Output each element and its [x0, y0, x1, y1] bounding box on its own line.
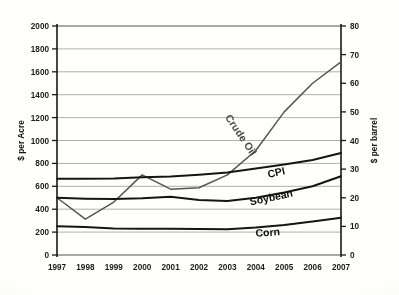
right-tick-label-70: 70: [350, 51, 360, 60]
left-tick-label-400: 400: [35, 205, 49, 214]
right-tick-label-50: 50: [350, 108, 360, 117]
data-series-group: [57, 62, 341, 229]
x-tick-label-2000: 2000: [133, 263, 152, 272]
x-tick-label-1997: 1997: [48, 263, 67, 272]
series-label-corn: Corn: [255, 225, 280, 239]
gridlines: [57, 26, 341, 255]
x-tick-label-2003: 2003: [218, 263, 237, 272]
right-tick-label-60: 60: [350, 79, 360, 88]
x-tick-label-2002: 2002: [190, 263, 209, 272]
right-axis: 80 70 60 50 40 30 20 10 0 $ per barrel: [341, 22, 379, 260]
x-tick-label-2005: 2005: [275, 263, 294, 272]
chart-container: 2000 1800 1600 1400 1200 1000 800 600 40…: [0, 0, 399, 295]
x-tick-label-1998: 1998: [76, 263, 95, 272]
right-tick-label-10: 10: [350, 222, 360, 231]
left-axis: 2000 1800 1600 1400 1200 1000 800 600 40…: [16, 22, 57, 260]
left-tick-label-200: 200: [35, 228, 49, 237]
series-label-cpi: CPI: [266, 164, 286, 180]
left-tick-label-800: 800: [35, 159, 49, 168]
right-tick-label-30: 30: [350, 165, 360, 174]
right-tick-label-40: 40: [350, 137, 360, 146]
left-tick-label-600: 600: [35, 182, 49, 191]
series-line-cpi: [57, 153, 341, 179]
left-tick-label-1600: 1600: [31, 68, 50, 77]
left-tick-label-2000: 2000: [31, 22, 50, 31]
right-axis-title: $ per barrel: [369, 118, 379, 164]
right-tick-label-80: 80: [350, 22, 360, 31]
right-tick-label-20: 20: [350, 194, 360, 203]
left-tick-label-1800: 1800: [31, 45, 50, 54]
series-labels: Crude Oil CPI Soybean Corn: [223, 112, 294, 239]
series-line-corn: [57, 218, 341, 229]
x-axis: 1997 1998 1999 2000 2001 2002 2003 2004 …: [48, 263, 351, 272]
left-tick-label-1200: 1200: [31, 114, 50, 123]
series-label-soybean: Soybean: [249, 187, 294, 208]
left-tick-label-1400: 1400: [31, 91, 50, 100]
x-tick-label-2007: 2007: [332, 263, 351, 272]
x-tick-label-2006: 2006: [303, 263, 322, 272]
line-chart: 2000 1800 1600 1400 1200 1000 800 600 40…: [0, 0, 399, 295]
x-tick-label-1999: 1999: [105, 263, 124, 272]
right-tick-label-0: 0: [350, 251, 355, 260]
left-tick-label-0: 0: [44, 251, 49, 260]
left-tick-label-1000: 1000: [31, 137, 50, 146]
x-tick-label-2001: 2001: [161, 263, 180, 272]
series-label-crude-oil: Crude Oil: [223, 112, 259, 158]
series-line-soybean: [57, 176, 341, 201]
left-axis-title: $ per Acre: [16, 120, 26, 161]
x-tick-label-2004: 2004: [247, 263, 266, 272]
